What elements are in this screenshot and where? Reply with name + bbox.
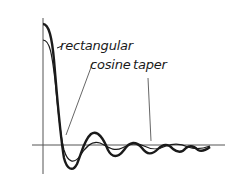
spectral-window-diagram: [0, 0, 235, 184]
rectangular-label: rectangular: [60, 38, 133, 53]
cosine-leader: [66, 62, 93, 135]
taper-label: taper: [133, 57, 167, 72]
taper-leader: [148, 78, 151, 141]
cosine-label: cosine: [90, 57, 131, 72]
